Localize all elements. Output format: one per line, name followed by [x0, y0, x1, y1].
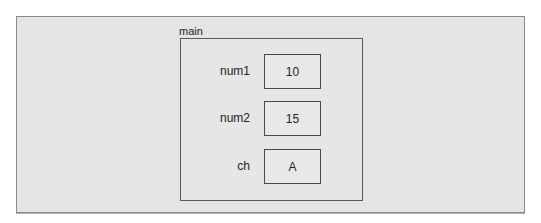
- variable-value-ch: A: [264, 149, 321, 184]
- variable-name-num1: num1: [190, 64, 250, 78]
- variable-name-ch: ch: [190, 159, 250, 173]
- stack-frame-label: main: [179, 25, 203, 37]
- variable-value-num2: 15: [264, 101, 321, 136]
- variable-value-num1: 10: [264, 54, 321, 89]
- variable-name-num2: num2: [190, 111, 250, 125]
